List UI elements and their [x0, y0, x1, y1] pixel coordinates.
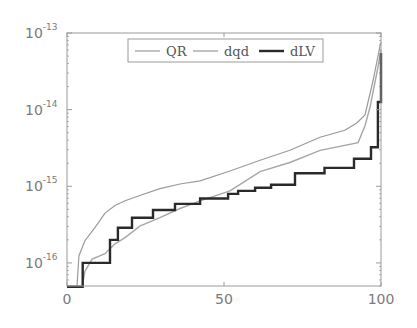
x-tick-label: 100 [368, 291, 395, 307]
legend-label-dqd: dqd [224, 44, 249, 59]
legend: QR dqd dLV [128, 39, 323, 62]
x-tick-label: 0 [63, 291, 72, 307]
plot-area [67, 33, 381, 286]
y-tick-label: 10-15 [25, 175, 58, 194]
y-tick-label: 10-13 [25, 22, 58, 41]
x-tick-label: 50 [215, 291, 233, 307]
legend-label-qr: QR [166, 44, 188, 59]
y-tick-label: 10-16 [25, 252, 58, 271]
error-chart: 050100 10-1310-1410-1510-16 QR dqd dLV [0, 0, 417, 328]
y-tick-label: 10-14 [25, 99, 58, 118]
legend-label-dlv: dLV [290, 44, 315, 59]
